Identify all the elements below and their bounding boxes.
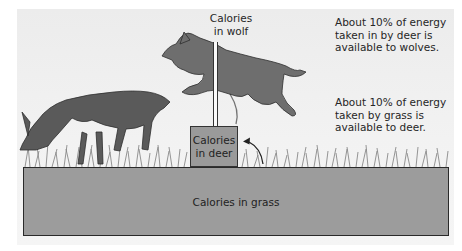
note-line: About 10% of energy — [335, 16, 460, 29]
note-deer-to-wolf: About 10% of energy taken in by deer is … — [335, 16, 460, 54]
arrow-head — [243, 137, 253, 146]
wolf-calories-bar — [213, 42, 218, 127]
grass-label: Calories in grass — [193, 196, 280, 208]
deer-label-line1: Calories — [193, 134, 235, 147]
note-line: taken by grass is — [335, 109, 460, 122]
wolf-calories-label: Calories in wolf — [196, 12, 266, 37]
deer-illustration — [20, 91, 170, 164]
deer-calories-box: Calories in deer — [190, 126, 238, 167]
deer-label-line2: in deer — [193, 147, 235, 160]
wolf-label-line1: Calories — [196, 12, 266, 25]
wolf-label-line2: in wolf — [196, 25, 266, 38]
note-line: About 10% of energy — [335, 96, 460, 109]
note-line: available to wolves. — [335, 41, 460, 54]
note-line: available to deer. — [335, 121, 460, 134]
arrow-deer-to-wolf — [230, 94, 237, 124]
note-line: taken in by deer is — [335, 29, 460, 42]
grass-calories-box: Calories in grass — [23, 167, 449, 236]
note-grass-to-deer: About 10% of energy taken by grass is av… — [335, 96, 460, 134]
wolf-illustration — [162, 32, 306, 116]
